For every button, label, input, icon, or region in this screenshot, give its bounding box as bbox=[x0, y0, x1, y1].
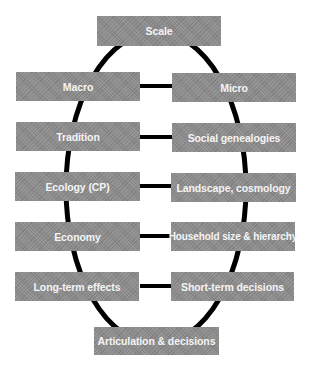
node-micro: Micro bbox=[172, 73, 296, 102]
scale-diagram: Scale Macro Micro Tradition Social genea… bbox=[0, 0, 310, 375]
node-economy: Economy bbox=[15, 222, 140, 251]
node-macro: Macro bbox=[16, 72, 140, 101]
node-social-genealogies: Social genealogies bbox=[172, 123, 296, 152]
node-short-term-decisions: Short-term decisions bbox=[171, 272, 294, 301]
node-household: Household size & hierarchy bbox=[171, 222, 295, 251]
node-scale: Scale bbox=[97, 16, 221, 46]
node-landscape-cosmology: Landscape, cosmology bbox=[171, 173, 296, 202]
node-long-term-effects: Long-term effects bbox=[15, 272, 139, 301]
node-tradition: Tradition bbox=[16, 122, 140, 151]
node-ecology: Ecology (CP) bbox=[15, 172, 140, 201]
node-articulation-decisions: Articulation & decisions bbox=[94, 327, 219, 355]
